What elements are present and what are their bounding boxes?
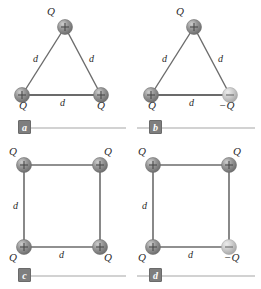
charge-label-bottom-left: Q: [148, 100, 156, 111]
charge-apex: [187, 20, 202, 35]
panel-b: Q Q −Q d d d b: [131, 0, 261, 144]
side-label-bottom: d: [189, 98, 194, 108]
charge-configuration-figure: Q Q Q d d d a: [0, 0, 261, 289]
panel-badge-c: c: [18, 268, 31, 282]
square-edges: [24, 165, 100, 247]
panel-c-footer: c: [0, 268, 130, 284]
charge-label-top-right: Q: [104, 146, 112, 157]
charge-label-bottom-right: −Q: [219, 100, 234, 111]
charge-label-bottom-left: Q: [9, 252, 17, 263]
charge-label-top-left: Q: [138, 146, 146, 157]
panel-a: Q Q Q d d d a: [0, 0, 130, 144]
charge-label-apex: Q: [47, 6, 55, 17]
panel-badge-a: a: [18, 120, 31, 134]
side-label-bottom: d: [188, 250, 193, 260]
charge-label-top-left: Q: [9, 146, 17, 157]
side-label-left: d: [33, 54, 38, 64]
footer-rule: [30, 127, 126, 129]
charge-label-bottom-left: Q: [138, 252, 146, 263]
panel-d-graphic: [131, 144, 261, 288]
panel-b-footer: b: [131, 120, 261, 136]
panel-c: Q Q Q Q d d c: [0, 144, 130, 288]
side-label-left: d: [162, 54, 167, 64]
charge-top-left: [17, 158, 32, 173]
charge-label-top-right: Q: [233, 146, 241, 157]
panel-d-footer: d: [131, 268, 261, 284]
square-edges: [153, 165, 229, 247]
side-label-left: d: [142, 201, 147, 211]
side-label-bottom: d: [60, 98, 65, 108]
charge-apex: [58, 20, 73, 35]
charge-label-apex: Q: [176, 6, 184, 17]
panel-c-graphic: [0, 144, 130, 288]
footer-rule: [30, 275, 126, 277]
panel-badge-b: b: [149, 120, 162, 134]
charge-label-bottom-right: Q: [97, 100, 105, 111]
charge-bottom-left: [146, 240, 161, 255]
charge-label-bottom-right: −Q: [224, 252, 239, 263]
side-label-bottom: d: [59, 250, 64, 260]
charge-top-right: [93, 158, 108, 173]
panel-badge-d: d: [149, 268, 162, 282]
charge-label-bottom-right: Q: [104, 252, 112, 263]
charge-top-right: [222, 158, 237, 173]
charge-top-left: [146, 158, 161, 173]
side-label-left: d: [13, 201, 18, 211]
charge-bottom-left: [17, 240, 32, 255]
panel-d: Q Q Q −Q d d d: [131, 144, 261, 288]
side-label-right: d: [89, 54, 94, 64]
side-label-right: d: [218, 54, 223, 64]
charge-label-bottom-left: Q: [19, 100, 27, 111]
panel-a-footer: a: [0, 120, 130, 136]
